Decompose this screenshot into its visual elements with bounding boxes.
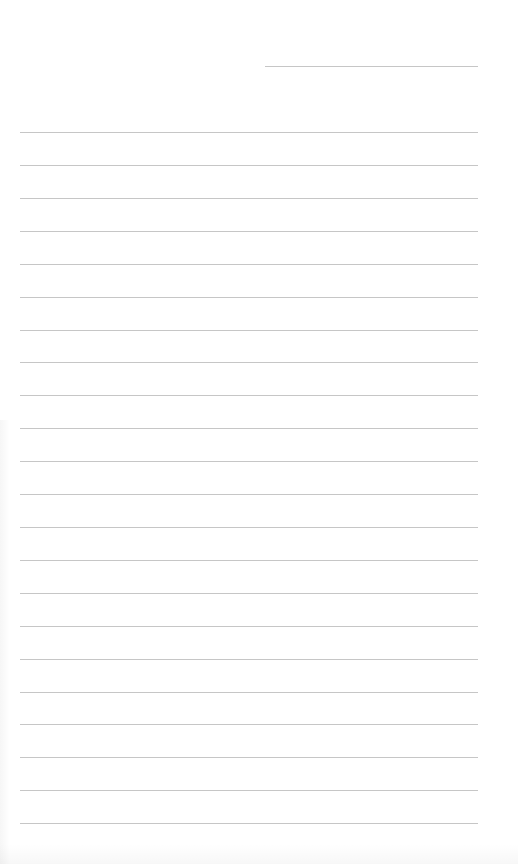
ruled-line	[20, 362, 478, 363]
ruled-line	[20, 132, 478, 133]
page-edge-shadow-left	[0, 420, 10, 864]
lined-paper-page	[0, 0, 518, 864]
ruled-line	[20, 823, 478, 824]
page-edge-shadow-bottom	[0, 844, 518, 864]
ruled-line	[20, 165, 478, 166]
ruled-line	[20, 494, 478, 495]
ruled-line	[20, 297, 478, 298]
ruled-line	[20, 692, 478, 693]
ruled-line	[20, 790, 478, 791]
header-date-line	[265, 66, 478, 67]
ruled-line	[20, 593, 478, 594]
ruled-line	[20, 198, 478, 199]
ruled-line	[20, 264, 478, 265]
ruled-line	[20, 724, 478, 725]
ruled-line	[20, 757, 478, 758]
ruled-line	[20, 395, 478, 396]
ruled-line	[20, 626, 478, 627]
ruled-line	[20, 659, 478, 660]
ruled-line	[20, 330, 478, 331]
ruled-line	[20, 527, 478, 528]
ruled-line	[20, 428, 478, 429]
ruled-line	[20, 231, 478, 232]
ruled-line	[20, 560, 478, 561]
ruled-line	[20, 461, 478, 462]
